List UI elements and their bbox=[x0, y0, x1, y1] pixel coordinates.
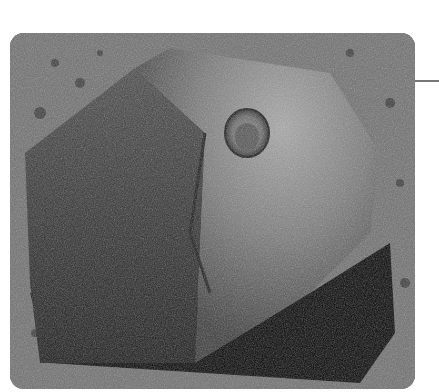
leader-line bbox=[415, 80, 439, 82]
rock-illustration bbox=[10, 33, 415, 389]
rock-photo bbox=[10, 33, 415, 389]
